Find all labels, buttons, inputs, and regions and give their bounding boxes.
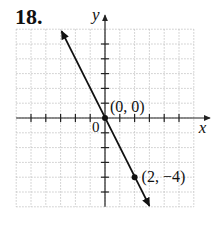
origin-label: 0 [92,119,100,135]
point-label: (0, 0) [110,98,145,116]
point-marker [102,115,108,121]
coordinate-graph: (0, 0)(2, −4) xy0 [0,0,216,229]
point-label: (2, −4) [142,168,186,186]
data-points: (0, 0)(2, −4) [102,98,185,186]
point-marker [132,174,138,180]
y-axis-label: y [90,5,100,24]
x-axis-label: x [198,118,207,137]
